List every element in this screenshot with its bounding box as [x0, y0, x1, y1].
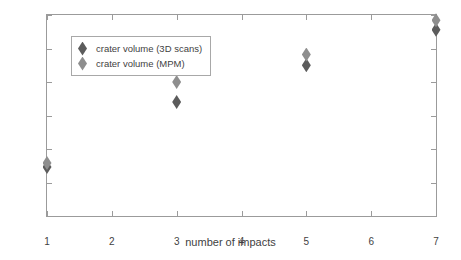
x-axis-tick — [306, 211, 307, 216]
x-axis-tick — [371, 15, 372, 20]
y-axis-tick — [47, 149, 52, 150]
x-axis-tick — [47, 15, 48, 20]
x-axis-tick — [112, 211, 113, 216]
y-axis-tick — [47, 49, 52, 50]
y-axis-tick — [431, 82, 436, 83]
x-axis-tick — [242, 15, 243, 20]
x-axis-tick — [112, 15, 113, 20]
y-axis-tick — [47, 183, 52, 184]
y-axis-tick — [47, 216, 52, 217]
data-point-marker — [172, 75, 181, 89]
y-axis-tick — [47, 116, 52, 117]
x-axis-tick — [371, 211, 372, 216]
x-axis-tick — [306, 15, 307, 20]
y-axis-tick — [431, 216, 436, 217]
data-point-marker — [172, 95, 181, 109]
data-point-marker — [302, 48, 311, 62]
x-axis-tick — [436, 211, 437, 216]
x-axis-tick — [177, 211, 178, 216]
chart-legend: crater volume (3D scans) crater volume (… — [71, 36, 211, 76]
legend-label: crater volume (3D scans) — [96, 43, 202, 54]
x-axis-tick — [47, 211, 48, 216]
y-axis-tick — [47, 82, 52, 83]
chart-figure: 00.511.522.531234567 number of impacts v… — [0, 0, 461, 260]
y-axis-tick — [431, 49, 436, 50]
y-axis-tick — [431, 183, 436, 184]
y-axis-tick — [431, 116, 436, 117]
legend-item-mpm[interactable]: crater volume (MPM) — [78, 56, 202, 71]
legend-label: crater volume (MPM) — [96, 58, 185, 69]
y-axis-tick — [431, 149, 436, 150]
x-axis-tick — [177, 15, 178, 20]
diamond-marker-icon — [78, 57, 87, 71]
diamond-marker-icon — [78, 42, 87, 56]
x-axis-label: number of impacts — [0, 236, 461, 248]
x-axis-tick — [242, 211, 243, 216]
legend-item-3d-scans[interactable]: crater volume (3D scans) — [78, 41, 202, 56]
